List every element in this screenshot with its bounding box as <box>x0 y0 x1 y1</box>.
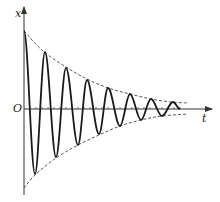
plot-area <box>0 0 220 202</box>
oscillation-curve <box>24 31 180 174</box>
y-axis-label: x <box>15 8 21 19</box>
origin-label: O <box>13 103 22 114</box>
lower-envelope <box>24 114 188 188</box>
x-axis-label: t <box>202 113 206 124</box>
damped-oscillation-diagram: x O t <box>0 0 220 202</box>
